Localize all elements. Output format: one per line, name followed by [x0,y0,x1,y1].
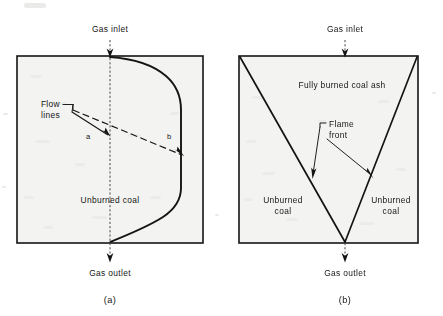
panel-a-region-label: Unburned coal [80,195,139,205]
panel-a-flow-line-b-letter: b [167,132,171,141]
panel-b-right-region-label-line2: coal [383,206,400,216]
panel-a-inlet-label: Gas inlet [92,24,129,34]
panel-a: Gas inlet Flow lines a b Unburned coal G… [17,24,203,305]
panel-b-left-region-label-line2: coal [275,206,292,216]
panel-b-callout-label-line1: Flame [329,119,354,129]
panel-b-left-region-label-line1: Unburned [263,195,303,205]
panel-b-outlet-arrow-icon [342,253,349,263]
combustion-flow-figure: Gas inlet Flow lines a b Unburned coal G… [0,0,443,316]
panel-a-callout-label-line2: lines [41,110,60,120]
panel-b-ash-label: Fully burned coal ash [299,80,386,90]
panel-b-callout-label-line2: front [329,130,348,140]
panel-b-outlet-label: Gas outlet [324,268,366,278]
panel-a-callout-label-line1: Flow [41,99,61,109]
panel-b-right-region-label-line1: Unburned [371,195,411,205]
panel-a-outlet-label: Gas outlet [89,268,131,278]
panel-a-outlet-arrow-icon [107,253,114,263]
panel-b: Gas inlet Fully burned coal ash Flame fr… [239,24,418,305]
panel-b-caption: (b) [339,295,351,305]
figure-container: Gas inlet Flow lines a b Unburned coal G… [0,0,443,316]
panel-b-inlet-label: Gas inlet [327,24,364,34]
panel-a-caption: (a) [104,295,116,305]
